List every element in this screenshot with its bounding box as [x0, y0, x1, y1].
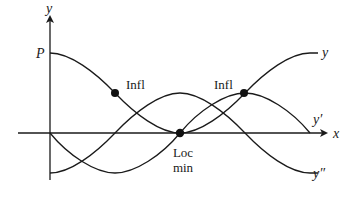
- derivative-diagram: y x P y y′ y″ Infl Infl Loc min: [0, 0, 345, 203]
- inflection-point-right: [240, 89, 248, 97]
- x-axis-label: x: [332, 126, 340, 141]
- label-loc: Loc: [173, 145, 193, 160]
- p-label: P: [35, 46, 45, 61]
- label-infl-right: Infl: [214, 77, 233, 92]
- label-min: min: [173, 160, 194, 175]
- label-y-prime: y′: [311, 112, 323, 127]
- y-axis-label: y: [44, 1, 53, 16]
- local-min-point: [176, 129, 184, 137]
- inflection-point-left: [111, 89, 119, 97]
- label-y-double-prime: y″: [311, 166, 325, 181]
- label-infl-left: Infl: [126, 77, 145, 92]
- label-y: y: [320, 45, 329, 60]
